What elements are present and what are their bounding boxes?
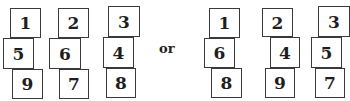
tile: 5 [311,37,342,68]
tile: 8 [106,68,136,98]
tile: 3 [108,6,140,37]
tile: 7 [315,68,345,98]
tile: 2 [58,8,89,38]
tile: 4 [103,37,134,68]
or-separator: or [159,41,175,56]
tile: 4 [270,37,300,68]
tile: 7 [59,69,89,99]
tile: 2 [262,8,293,37]
tile: 3 [318,6,350,37]
tile: 1 [209,8,240,38]
tile: 9 [265,68,295,98]
tile: 9 [12,69,43,99]
tile: 6 [49,38,81,69]
tile: 5 [3,38,34,69]
tile: 8 [211,68,242,98]
tile: 6 [204,38,235,68]
tile: 1 [10,8,41,38]
